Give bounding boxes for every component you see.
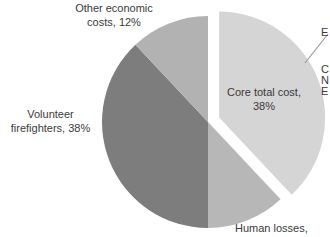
clipped-text-fragment: E xyxy=(321,26,328,38)
label-clipped-right-top: E xyxy=(321,25,328,39)
label-human-text: Human losses, xyxy=(235,222,308,234)
label-other-economic-costs: Other economic costs, 12% xyxy=(38,1,190,29)
clipped-text-fragment: E xyxy=(321,86,329,97)
label-other-economic-line2: costs, 12% xyxy=(38,15,190,29)
label-volunteer-line1: Volunteer xyxy=(0,107,101,121)
label-core-line2: 38% xyxy=(212,99,316,113)
label-core-line1: Core total cost, xyxy=(212,85,316,99)
label-other-economic-line1: Other economic xyxy=(38,1,190,15)
pie-slices xyxy=(102,12,325,228)
label-clipped-right-block: C N E xyxy=(321,64,329,97)
label-volunteer-line2: firefighters, 38% xyxy=(0,121,101,135)
label-core-total-cost: Core total cost, 38% xyxy=(212,85,316,113)
label-volunteer-firefighters: Volunteer firefighters, 38% xyxy=(0,107,101,135)
label-human-losses: Human losses, xyxy=(235,221,308,235)
pie-chart-figure: { "figure": { "background": "#ffffff", "… xyxy=(0,0,330,237)
